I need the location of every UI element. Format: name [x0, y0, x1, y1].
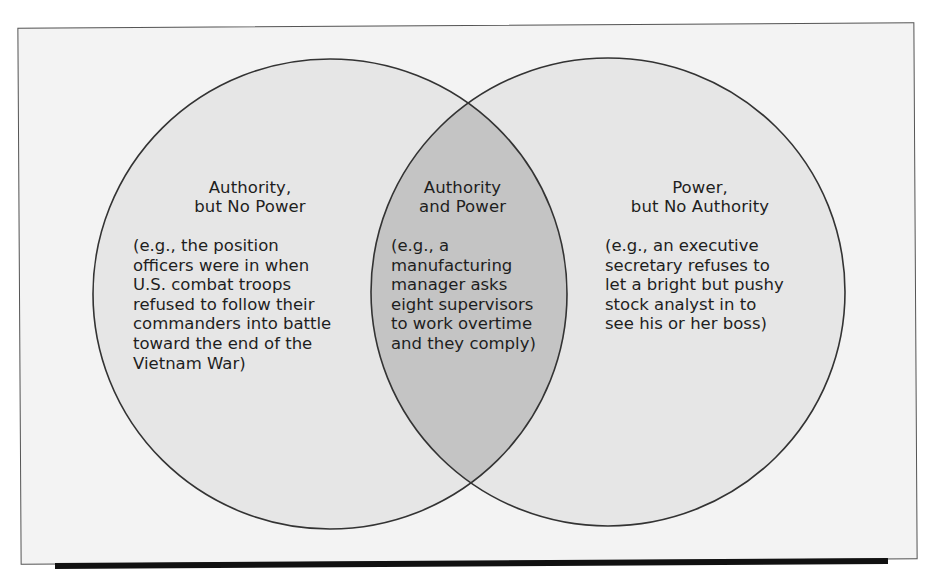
center-title-line1: Authority — [385, 178, 540, 197]
center-title-line2: and Power — [385, 197, 540, 216]
right-region-example: (e.g., an executive secretary refuses to… — [605, 236, 835, 334]
left-title-line2: but No Power — [170, 197, 330, 216]
left-title-line1: Authority, — [170, 178, 330, 197]
left-region-example: (e.g., the position officers were in whe… — [133, 236, 363, 373]
right-title-line2: but No Authority — [615, 197, 785, 216]
right-region-title: Power, but No Authority — [615, 178, 785, 216]
center-region-example: (e.g., a manufacturing manager asks eigh… — [391, 236, 561, 354]
right-title-line1: Power, — [615, 178, 785, 197]
left-region-title: Authority, but No Power — [170, 178, 330, 216]
center-region-title: Authority and Power — [385, 178, 540, 216]
